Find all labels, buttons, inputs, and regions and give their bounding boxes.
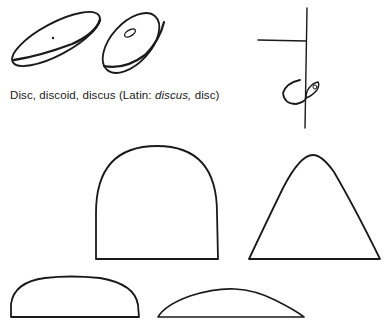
stem-hook-figure (258, 8, 319, 128)
disc-holed-figure (92, 3, 170, 83)
figure-caption: Disc, discoid, discus (Latin: discus, di… (10, 89, 219, 101)
arc-low-figure (158, 289, 304, 317)
caption-term: Disc, discoid, discus (Latin: (10, 89, 155, 101)
dome-tall-figure (96, 146, 218, 259)
caption-gloss: disc) (191, 89, 219, 101)
caption-latin: discus, (155, 89, 192, 101)
shape-drawings (0, 0, 389, 330)
disc-dotted-figure (5, 2, 107, 76)
illustration-plate: Disc, discoid, discus (Latin: discus, di… (0, 0, 389, 330)
dome-flat-figure (11, 277, 139, 318)
bell-figure (249, 155, 380, 259)
center-dot-icon (52, 37, 54, 39)
